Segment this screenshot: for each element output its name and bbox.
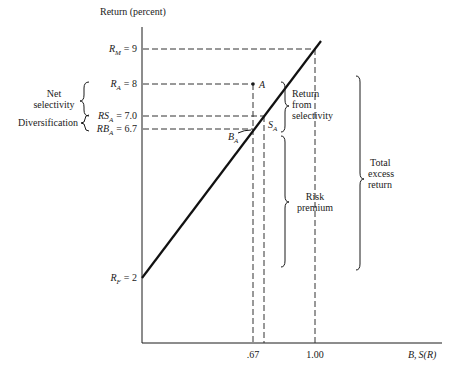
y-label-rb: RBA= 6.7: [96, 123, 137, 137]
return-decomposition-diagram: Return (percent) A SA BA RM= 9 RA= 8 RSA…: [0, 0, 454, 370]
return-from-selectivity-line3: selectivity: [292, 110, 333, 121]
net-selectivity-label-line1: Net: [47, 88, 62, 99]
point-a-label: A: [258, 79, 266, 90]
risk-premium-line1: Risk: [306, 191, 324, 202]
x-tick-beta-a: .67: [247, 349, 260, 360]
total-excess-return-line1: Total: [370, 157, 391, 168]
risk-premium-brace: [281, 136, 289, 267]
diversification-brace: [81, 115, 89, 131]
x-tick-beta-m: 1.00: [306, 349, 324, 360]
return-from-selectivity-brace: [281, 82, 289, 132]
point-s-a-label: SA: [268, 119, 278, 133]
net-selectivity-brace: [80, 82, 89, 116]
total-excess-return-line2: excess: [368, 168, 394, 179]
net-selectivity-label-line2: selectivity: [33, 99, 74, 110]
market-line: [142, 41, 321, 278]
diversification-label: Diversification: [18, 117, 78, 128]
x-axis-title: B,S(R): [408, 349, 437, 361]
total-excess-return-line3: return: [368, 179, 392, 190]
y-label-rs: RSA= 7.0: [97, 110, 137, 124]
y-label-ra: RA= 8: [109, 78, 137, 92]
y-axis-title: Return (percent): [100, 6, 166, 18]
risk-premium-line2: premium: [297, 202, 333, 213]
return-from-selectivity-line2: from: [292, 99, 312, 110]
return-from-selectivity-line1: Return: [292, 88, 319, 99]
b-a-arrow: [238, 130, 251, 133]
y-label-rf: RF= 2: [109, 272, 137, 286]
total-excess-return-brace: [356, 76, 364, 270]
y-label-rm: RM= 9: [108, 43, 137, 57]
point-b-a-label: BA: [228, 131, 239, 145]
point-a-marker: [251, 82, 255, 86]
